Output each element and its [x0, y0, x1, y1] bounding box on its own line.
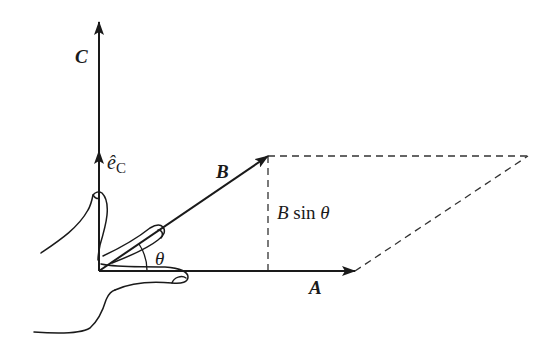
vector-a-label: A	[309, 278, 322, 297]
cross-product-diagram: C êC B θ B sin θ A	[0, 0, 558, 363]
parallelogram-right-edge	[355, 156, 528, 271]
angle-theta-label: θ	[155, 249, 164, 268]
height-theta: θ	[320, 202, 329, 223]
height-sin: sin	[293, 202, 315, 223]
unit-vector-c-base: ê	[107, 151, 116, 173]
height-b: B	[277, 202, 289, 223]
height-b-sin-theta-label: B sin θ	[277, 203, 330, 222]
unit-vector-c-subscript: C	[116, 160, 126, 176]
vector-b-label: B	[216, 162, 229, 181]
vector-c-label: C	[75, 47, 88, 66]
unit-vector-c-label: êC	[107, 152, 126, 172]
